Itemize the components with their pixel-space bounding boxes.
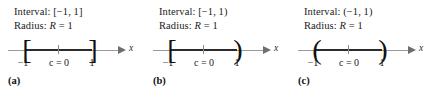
panel-a-axis-label: x (129, 43, 133, 53)
panel-c-center-tick (348, 45, 349, 54)
panel-b: Interval: [−1, 1) Radius: R = 1 x [ ) −1… (145, 0, 290, 95)
panel-a-tick-label-left: −1 (14, 57, 32, 68)
panel-b-tick-label-center: c = 0 (185, 57, 223, 68)
panel-b-caption: (b) (153, 75, 166, 86)
panel-a-axis-arrowhead-icon (118, 46, 126, 54)
panel-a-number-line: x [ ] −1 c = 0 1 (0, 36, 145, 70)
panel-b-tick-label-right: 1 (228, 57, 246, 68)
panel-b-interval-text: Interval: [−1, 1) (159, 5, 228, 19)
panel-a-interval-segment (26, 49, 92, 51)
panel-b-radius-suffix: = 1 (201, 20, 218, 31)
panel-c-tick-label-right: 1 (373, 57, 391, 68)
panel-b-interval-segment (171, 49, 237, 51)
panel-b-tick-label-left: −1 (159, 57, 177, 68)
panel-c-radius-text: Radius: R = 1 (304, 19, 373, 33)
panel-c: Interval: (−1, 1) Radius: R = 1 x ( ) −1… (290, 0, 435, 95)
panel-a-tick-label-right: 1 (83, 57, 101, 68)
panel-b-text: Interval: [−1, 1) Radius: R = 1 (159, 5, 228, 32)
panel-b-number-line: x [ ) −1 c = 0 1 (145, 36, 290, 70)
panel-c-caption: (c) (298, 75, 310, 86)
panel-c-interval-segment (316, 49, 382, 51)
panel-c-radius-prefix: Radius: (304, 20, 340, 31)
panel-b-axis-label: x (274, 43, 278, 53)
panel-c-tick-label-center: c = 0 (330, 57, 368, 68)
panel-c-text: Interval: (−1, 1) Radius: R = 1 (304, 5, 373, 32)
panel-b-axis-arrowhead-icon (263, 46, 271, 54)
panel-c-number-line: x ( ) −1 c = 0 1 (290, 36, 435, 70)
panel-c-axis-arrowhead-icon (408, 46, 416, 54)
panel-c-radius-suffix: = 1 (346, 20, 363, 31)
panel-b-center-tick (203, 45, 204, 54)
panel-a: Interval: [−1, 1] Radius: R = 1 x [ ] −1… (0, 0, 145, 95)
panel-a-radius-prefix: Radius: (14, 20, 50, 31)
panel-a-center-tick (58, 45, 59, 54)
panel-b-radius-text: Radius: R = 1 (159, 19, 228, 33)
panel-b-radius-prefix: Radius: (159, 20, 195, 31)
panel-a-text: Interval: [−1, 1] Radius: R = 1 (14, 5, 83, 32)
panel-a-radius-suffix: = 1 (56, 20, 73, 31)
panel-a-radius-text: Radius: R = 1 (14, 19, 83, 33)
panel-c-tick-label-left: −1 (304, 57, 322, 68)
interval-figure: Interval: [−1, 1] Radius: R = 1 x [ ] −1… (0, 0, 435, 95)
panel-c-interval-text: Interval: (−1, 1) (304, 5, 373, 19)
panel-c-axis-label: x (419, 43, 423, 53)
panel-a-caption: (a) (8, 75, 20, 86)
panel-a-tick-label-center: c = 0 (40, 57, 78, 68)
panel-a-interval-text: Interval: [−1, 1] (14, 5, 83, 19)
